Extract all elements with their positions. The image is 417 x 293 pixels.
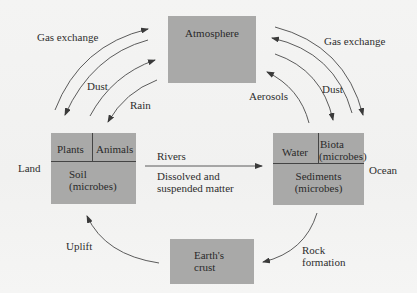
left-dust-label: Dust [87,80,108,92]
rain-label: Rain [130,99,151,111]
rivers-subtitle-line2: suspended matter [157,182,234,194]
plants-label: Plants [57,143,84,155]
biota-microbes-label: (microbes) [319,150,367,162]
earths-crust-line1: Earth's [194,249,224,261]
left-gas-exchange-label: Gas exchange [37,31,98,43]
land-vertical-divider [92,133,93,161]
land-horizontal-divider [51,161,136,162]
earths-crust-line2: crust [194,261,215,273]
biota-label: Biota [320,138,344,150]
ocean-box: Water Biota (microbes) Sediments (microb… [273,133,364,205]
uplift-label: Uplift [66,240,92,252]
atmosphere-box: Atmosphere [168,16,256,83]
rock-formation-line2: formation [302,256,345,268]
rivers-subtitle-line1: Dissolved and [157,170,220,182]
arrow-uplift [87,216,159,263]
rivers-label: Rivers [157,150,186,162]
soil-label: Soil [69,168,87,180]
sediments-label: Sediments [273,170,364,182]
biogeochemical-cycle-diagram: Atmosphere Plants Animals Soil (microbes… [0,0,417,293]
ocean-side-label: Ocean [369,164,397,176]
water-label: Water [282,146,308,158]
rock-formation-line1: Rock [302,244,325,256]
right-dust-label: Dust [322,83,343,95]
land-side-label: Land [18,162,41,174]
sediments-microbes-label: (microbes) [273,182,364,194]
ocean-horizontal-divider [273,163,364,164]
soil-microbes-label: (microbes) [69,180,117,192]
aerosols-label: Aerosols [249,90,288,102]
atmosphere-label: Atmosphere [168,27,256,39]
animals-label: Animals [96,143,133,155]
land-box: Plants Animals Soil (microbes) [51,133,136,204]
right-gas-exchange-label: Gas exchange [324,35,385,47]
earths-crust-box: Earth's crust [170,239,254,284]
